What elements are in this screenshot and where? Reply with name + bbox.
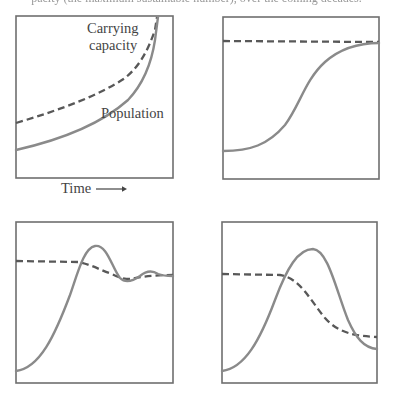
time-arrow-icon: [96, 186, 127, 191]
panel-3: [16, 222, 173, 383]
carrying-capacity-figure: Carrying capacity Population Time: [0, 0, 393, 395]
label-population: Population: [101, 105, 165, 121]
panel-2: [223, 17, 379, 179]
label-capacity: capacity: [89, 37, 138, 53]
label-carrying: Carrying: [87, 20, 139, 36]
panel-1: Carrying capacity Population Time: [16, 16, 173, 196]
x-axis-label-time: Time: [61, 180, 91, 196]
panel-2-carrying-capacity-curve: [223, 41, 379, 42]
panel-4: [222, 222, 377, 383]
